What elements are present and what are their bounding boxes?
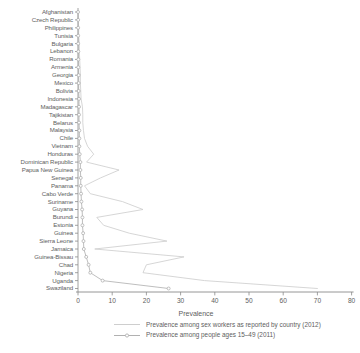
y-axis-label: Guyana (52, 206, 73, 212)
y-axis-label: Lebanon (50, 48, 73, 54)
y-axis-label: Guinea-Bissau (34, 254, 73, 260)
y-axis-label: Uganda (52, 278, 73, 284)
y-axis-label: Madagascar (40, 104, 73, 110)
y-axis-label: Philippines (45, 25, 73, 31)
y-axis-label: Chad (59, 262, 73, 268)
y-axis-label: Swaziland (46, 285, 73, 291)
y-axis-label: Sierra Leone (39, 238, 73, 244)
y-axis-label: Indonesia (47, 96, 73, 102)
y-axis-label: Senegal (51, 175, 73, 181)
series-sex-workers (78, 12, 317, 289)
legend-label: Prevalence among sex workers as reported… (146, 322, 321, 328)
y-axis-label: Belarus (53, 120, 73, 126)
y-axis-label: Bulgaria (51, 41, 73, 47)
legend-label: Prevalence among people ages 15–49 (2011… (146, 332, 275, 338)
y-axis-label: Burundi (53, 214, 73, 220)
y-axis-label: Tajikistan (49, 112, 73, 118)
y-axis-label: Nigeria (54, 270, 73, 276)
y-axis-label: Afghanistan (42, 9, 73, 15)
y-axis-label: Guinea (54, 230, 73, 236)
y-axis-label: Suriname (48, 199, 73, 205)
y-axis-label: Mexico (54, 80, 73, 86)
y-axis-label: Czech Republic (32, 17, 73, 23)
x-axis-tick-label: 80 (332, 298, 360, 305)
y-axis-label: Armenia (51, 64, 73, 70)
y-axis-label: Papua New Guinea (22, 167, 73, 173)
y-axis-label: Jamaica (51, 246, 73, 252)
y-axis-label: Estonia (53, 222, 73, 228)
legend-swatch (113, 320, 141, 329)
y-axis-label: Romania (49, 56, 73, 62)
y-axis-label: Tunisia (54, 33, 73, 39)
legend-swatch (113, 331, 141, 340)
y-axis-label: Chile (60, 135, 73, 141)
y-axis-label: Dominican Republic (21, 159, 73, 165)
y-axis-label: Cabo Verde (42, 191, 73, 197)
y-axis-label: Panama (51, 183, 73, 189)
y-axis-label: Honduras (47, 151, 73, 157)
y-axis-label: Malaysia (50, 127, 73, 133)
x-axis-title: Prevalence (0, 310, 354, 317)
y-axis-label: Vietnam (51, 143, 73, 149)
y-axis-label: Georgia (52, 72, 73, 78)
y-axis-label: Bolivia (56, 88, 73, 94)
